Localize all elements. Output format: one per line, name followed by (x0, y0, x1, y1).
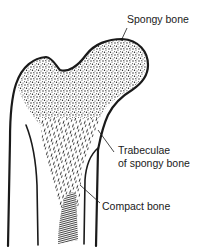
label-spongy-bone: Spongy bone (127, 13, 189, 25)
label-compact-bone: Compact bone (102, 200, 170, 212)
label-trabeculae-line2: of spongy bone (118, 157, 190, 169)
femur-diagram (0, 0, 197, 252)
label-trabeculae-line1: Trabeculae (118, 144, 170, 156)
shaft-inner-left-line (26, 125, 38, 245)
spongy-bone-region (18, 40, 146, 125)
